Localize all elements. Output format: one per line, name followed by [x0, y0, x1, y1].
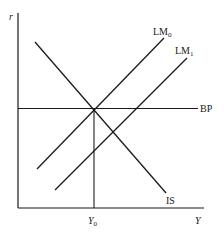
is-lm-bp-diagram: r Y LM0 LM1 BP IS Y0 — [0, 0, 224, 238]
is-curve — [35, 42, 166, 193]
x-axis-label: Y — [195, 215, 202, 226]
y0-label: Y0 — [88, 215, 98, 228]
is-label: IS — [166, 195, 175, 206]
lm0-label: LM0 — [153, 26, 172, 39]
y-axis-label: r — [9, 11, 13, 22]
lm1-label: LM1 — [175, 45, 194, 58]
lm1-curve — [55, 58, 187, 190]
bp-label: BP — [200, 103, 213, 114]
lm0-curve — [37, 38, 164, 169]
